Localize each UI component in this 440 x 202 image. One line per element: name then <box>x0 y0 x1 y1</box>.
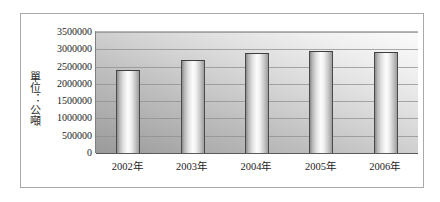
bar[interactable] <box>116 70 140 153</box>
x-axis-tick-label: 2006年 <box>353 160 417 174</box>
bar[interactable] <box>245 53 269 153</box>
bar[interactable] <box>374 52 398 153</box>
y-axis-tick-label: 1500000 <box>40 95 92 106</box>
y-axis-tick-label: 500000 <box>40 130 92 141</box>
x-axis-tick-label: 2003年 <box>159 160 223 174</box>
x-axis-tick-labels: 2002年2003年2004年2005年2006年 <box>95 160 417 178</box>
bar-slot <box>354 32 418 153</box>
y-axis-tick-labels: 0500000100000015000002000000250000030000… <box>40 25 92 159</box>
bar[interactable] <box>309 51 333 153</box>
y-axis-tick-label: 0 <box>40 147 92 158</box>
x-axis-tick-label: 2005年 <box>288 160 352 174</box>
y-axis-tick-label: 2000000 <box>40 78 92 89</box>
x-axis-tick-label: 2002年 <box>95 160 159 174</box>
bar[interactable] <box>181 60 205 153</box>
x-axis-line <box>96 153 418 154</box>
chart-page: 單位：公噸 0500000100000015000002000000250000… <box>0 0 440 202</box>
bar-slot <box>160 32 224 153</box>
y-axis-tick-label: 1000000 <box>40 112 92 123</box>
y-axis-tick-label: 2500000 <box>40 61 92 72</box>
y-axis-tick-label: 3500000 <box>40 26 92 37</box>
y-axis-tick-label: 3000000 <box>40 43 92 54</box>
y-axis-title: 單位：公噸 <box>27 52 41 144</box>
bar-slot <box>96 32 160 153</box>
plot-area <box>95 31 418 153</box>
x-axis-tick-label: 2004年 <box>224 160 288 174</box>
bar-slot <box>289 32 353 153</box>
bar-slot <box>225 32 289 153</box>
bar-series <box>96 32 418 153</box>
